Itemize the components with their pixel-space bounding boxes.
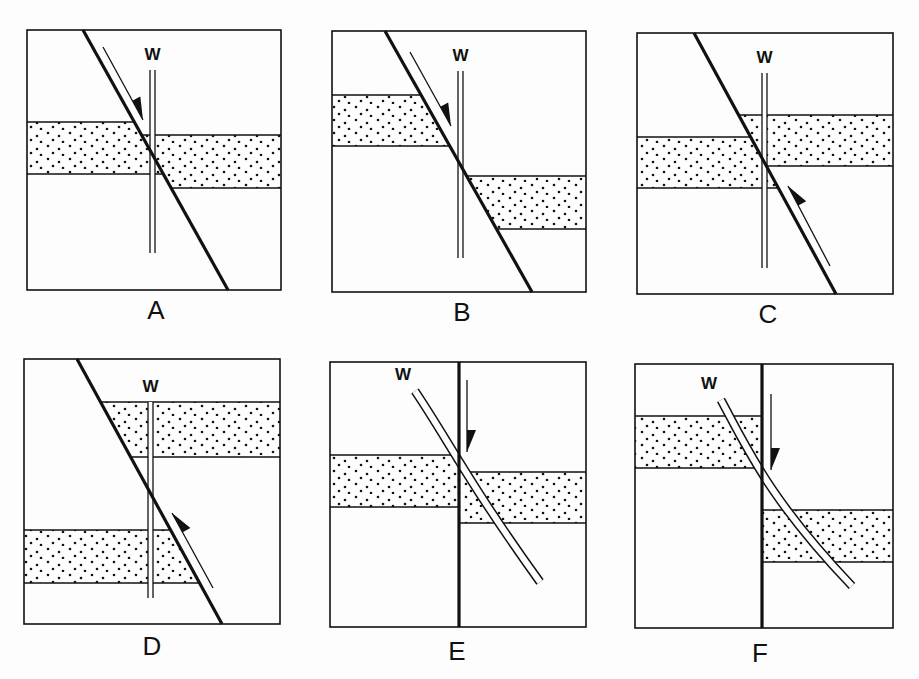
sand-bed-left — [332, 95, 450, 146]
well-label-d: W — [141, 378, 161, 395]
arrow-head — [788, 186, 806, 205]
displacement-arrow-icon — [467, 380, 476, 452]
panel-label-e: E — [437, 638, 477, 664]
panel-label-c: C — [748, 301, 788, 327]
panel-b — [332, 31, 586, 292]
displacement-arrow-icon — [103, 47, 143, 120]
well-label-b: W — [451, 47, 471, 64]
panel-label-f: F — [740, 640, 780, 666]
panel-label-d: D — [132, 633, 172, 659]
panel-f — [635, 364, 893, 628]
panel-a — [27, 30, 281, 290]
sand-bed-right — [467, 176, 586, 229]
well-label-c: W — [755, 49, 775, 66]
panel-frame — [635, 364, 893, 628]
arrow-head — [467, 430, 476, 452]
panel-label-a: A — [136, 297, 176, 323]
sand-bed-left — [27, 122, 163, 174]
panel-e — [330, 362, 586, 627]
well-bore-fill — [150, 70, 155, 253]
well-label-a: W — [143, 46, 163, 63]
panel-d — [24, 359, 280, 624]
fault-diagram-figure — [0, 0, 919, 679]
arrow-head — [440, 102, 451, 126]
panel-label-b: B — [442, 299, 482, 325]
well-label-e: W — [393, 366, 413, 383]
arrow-shaft — [103, 47, 143, 120]
well-bore-fill — [762, 73, 767, 268]
fault-diagram-canvas — [0, 0, 919, 679]
arrow-head — [771, 448, 780, 470]
well-bore-fill — [148, 402, 153, 598]
displacement-arrow-icon — [771, 394, 780, 470]
panel-c — [637, 33, 893, 294]
sand-bed-right — [142, 135, 281, 188]
sand-bed-left — [330, 455, 459, 507]
arrow-head — [132, 96, 143, 120]
well-label-f: W — [699, 375, 719, 392]
arrow-head — [172, 513, 190, 532]
displacement-arrow-icon — [788, 186, 830, 266]
